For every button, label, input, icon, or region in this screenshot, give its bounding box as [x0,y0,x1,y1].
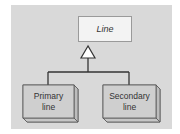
superclass-line-box: Line [78,16,132,42]
secondary-label-line1: Secondary [109,91,150,102]
primary-label-line1: Primary [34,91,63,102]
subclass-primary-line: Primary line [23,85,74,118]
superclass-label: Line [96,24,113,34]
subclass-secondary-line: Secondary line [103,85,156,118]
secondary-label-line2: line [109,102,150,113]
generalization-arrow-icon [81,46,95,58]
primary-label-line2: line [34,102,63,113]
